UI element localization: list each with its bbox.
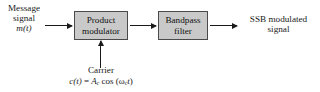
output-signal-line2: signal bbox=[239, 25, 318, 35]
carrier-label-text: Carrier bbox=[88, 65, 114, 75]
carrier-eq-close-paren: ) bbox=[130, 76, 133, 86]
carrier-eq-lhs: c(t) bbox=[69, 76, 82, 86]
carrier-equation: c(t) = Ac cos (ωct) bbox=[48, 77, 154, 87]
carrier-label: Carrier bbox=[63, 66, 139, 76]
product-modulator-line1: Product bbox=[82, 15, 120, 25]
output-signal-label: SSB modulated signal bbox=[239, 15, 318, 35]
bandpass-filter-line1: Bandpass bbox=[165, 15, 200, 25]
carrier-eq-cos: cos ( bbox=[99, 76, 119, 86]
message-signal-expression: m(t) bbox=[2, 24, 46, 34]
product-modulator-block[interactable]: Product modulator bbox=[74, 11, 128, 40]
input-arrow-icon bbox=[45, 25, 72, 26]
carrier-arrow-icon bbox=[100, 41, 101, 68]
message-signal-label: Message signal m(t) bbox=[2, 4, 46, 34]
bandpass-filter-line2: filter bbox=[165, 26, 200, 36]
carrier-eq-equals: = bbox=[82, 76, 92, 86]
output-arrow-icon bbox=[210, 25, 237, 26]
ssb-modulator-diagram: Message signal m(t) Product modulator Ba… bbox=[0, 0, 320, 92]
product-modulator-line2: modulator bbox=[82, 26, 120, 36]
bandpass-filter-block[interactable]: Bandpass filter bbox=[158, 11, 208, 40]
interstage-arrow-icon bbox=[130, 25, 156, 26]
